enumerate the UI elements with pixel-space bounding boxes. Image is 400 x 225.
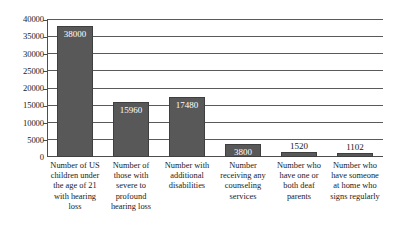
- bar-value-label: 3800: [234, 148, 252, 157]
- category-label: Number of US children under the age of 2…: [47, 161, 103, 223]
- bar-slot: 3800: [215, 19, 271, 157]
- category-label: Number receiving any counseling services: [215, 161, 271, 223]
- bar-slot: 38000: [47, 19, 103, 157]
- bar-slot: 1520: [271, 19, 327, 157]
- bar-chart: 40000 35000 30000 25000 20000 15000 1000…: [0, 0, 400, 225]
- bar[interactable]: 1520: [281, 152, 317, 157]
- y-tick-label: 15000: [0, 101, 44, 110]
- bar[interactable]: 17480: [169, 97, 205, 157]
- y-tick-label: 40000: [0, 15, 44, 24]
- y-tick-label: 30000: [0, 49, 44, 58]
- bar[interactable]: 38000: [57, 26, 93, 157]
- y-tick-label: 25000: [0, 66, 44, 75]
- y-tick-label: 10000: [0, 118, 44, 127]
- bar-slot: 17480: [159, 19, 215, 157]
- bar-value-label: 38000: [64, 30, 87, 39]
- category-label: Number who have one or both deaf parents: [271, 161, 327, 223]
- category-label: Number with additional disabilities: [159, 161, 215, 223]
- bar[interactable]: 3800: [225, 144, 261, 157]
- y-tick-label: 5000: [0, 135, 44, 144]
- y-tick-label: 0: [0, 153, 44, 162]
- bar-value-label: 1520: [290, 142, 308, 151]
- bar-slot: 15960: [103, 19, 159, 157]
- bar-value-label: 15960: [120, 106, 143, 115]
- y-axis: 40000 35000 30000 25000 20000 15000 1000…: [0, 19, 44, 157]
- bar[interactable]: 15960: [113, 102, 149, 157]
- bars-layer: 38000 15960 17480 3800 1520 1102: [47, 19, 383, 157]
- y-tick-label: 20000: [0, 84, 44, 93]
- bar[interactable]: 1102: [337, 153, 373, 157]
- x-axis: Number of US children under the age of 2…: [47, 161, 383, 223]
- y-tick-label: 35000: [0, 32, 44, 41]
- bar-value-label: 1102: [346, 143, 364, 152]
- category-label: Number who have someone at home who sign…: [327, 161, 383, 223]
- bar-slot: 1102: [327, 19, 383, 157]
- bar-value-label: 17480: [176, 101, 199, 110]
- category-label: Number of those with severe to profound …: [103, 161, 159, 223]
